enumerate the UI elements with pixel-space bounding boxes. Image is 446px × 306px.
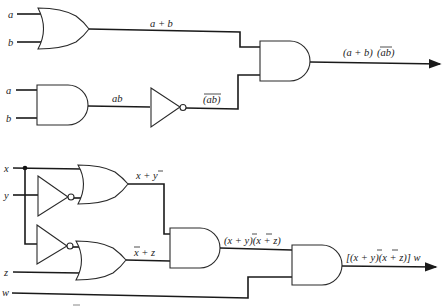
wire-z	[13, 272, 80, 273]
final-output-label: [(x + y)(x + z)] w	[346, 252, 421, 264]
wire-ab	[88, 106, 150, 107]
wire-x-branch	[25, 168, 37, 244]
not-gate-icon	[37, 225, 67, 264]
or-gate-icon	[78, 165, 128, 204]
final-output-label-prefix: (a + b)	[343, 47, 373, 59]
or-output-label: a + b	[150, 18, 173, 29]
input-y-label: y	[3, 190, 9, 201]
final-output-label-overbar: (ab)	[377, 47, 395, 59]
or-gate-icon	[38, 8, 89, 49]
not-output-label: (ab)	[203, 94, 221, 106]
logic-circuit-diagram: a b a + b a b ab (ab) (a + b) (ab) x	[0, 0, 446, 306]
inverter-bubble-icon	[68, 194, 74, 200]
input-x-label: x	[3, 163, 9, 174]
and3-output-label: (x + y)(x + z)	[224, 235, 281, 247]
wire-and3-out	[220, 248, 292, 250]
output-arrow-bottom	[342, 266, 436, 267]
wire-not-ab	[186, 75, 260, 109]
and-output-label: ab	[112, 93, 123, 104]
or3-output-label: x + y	[135, 170, 158, 181]
input-b-label: b	[8, 37, 13, 48]
and-gate-icon	[292, 245, 342, 285]
not-gate-icon	[151, 88, 180, 127]
input-a-label: a	[8, 9, 13, 20]
output-arrow-top	[310, 62, 440, 64]
and-gate-icon	[37, 85, 88, 125]
input-a2-label: a	[6, 85, 11, 96]
and-gate-icon	[170, 228, 220, 268]
not-gate-icon	[38, 176, 68, 216]
wire-w	[12, 277, 292, 298]
inverter-bubble-icon	[67, 243, 73, 249]
or-gate-icon	[76, 241, 126, 280]
wire-xbar-plus-z	[126, 260, 170, 261]
top-circuit: a b a + b a b ab (ab) (a + b) (ab)	[6, 8, 440, 127]
wire-a-plus-b	[89, 29, 260, 47]
or4-output-label: x + z	[133, 247, 155, 258]
input-b2-label: b	[6, 113, 11, 124]
bottom-circuit: x y z w x + y x + z (x + y)(x + z	[2, 163, 436, 305]
input-w-label: w	[2, 287, 9, 298]
wire-x-plus-ybar	[128, 184, 170, 234]
input-z-label: z	[3, 267, 8, 278]
inverter-bubble-icon	[180, 105, 186, 111]
and-gate-icon	[260, 41, 310, 81]
